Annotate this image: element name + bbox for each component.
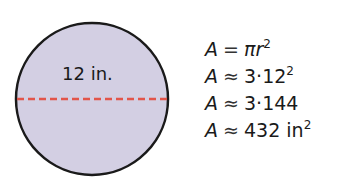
circle	[16, 23, 168, 175]
equations: A=πr2 A≈3·122 A≈3·144 A≈432 in2	[205, 36, 311, 144]
eq-exp: 2	[304, 118, 312, 132]
eq-op: ≈	[218, 117, 244, 144]
eq-rhs: 432 in	[244, 119, 304, 141]
eq-op: ≈	[218, 63, 244, 90]
eq-rhs: 3·144	[244, 92, 298, 114]
eq-exp: 2	[263, 37, 271, 51]
eq-lhs: A	[205, 38, 218, 60]
diameter-label: 12 in.	[62, 63, 113, 84]
eq-op: =	[218, 36, 244, 63]
eq-lhs: A	[205, 119, 218, 141]
eq-exp: 2	[286, 64, 294, 78]
equation-3: A≈3·144	[205, 90, 311, 117]
eq-lhs: A	[205, 92, 218, 114]
eq-lhs: A	[205, 65, 218, 87]
eq-rhs: 3·12	[244, 65, 286, 87]
eq-op: ≈	[218, 90, 244, 117]
equation-1: A=πr2	[205, 36, 311, 63]
eq-rhs: πr	[244, 38, 263, 60]
equation-4: A≈432 in2	[205, 117, 311, 144]
equation-2: A≈3·122	[205, 63, 311, 90]
